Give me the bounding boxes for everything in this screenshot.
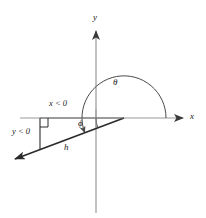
x-negative-label: x < 0 [49,99,67,108]
angle-diagram-figure: y x θ ϕ h x < 0 y < 0 [0,0,206,218]
phi-angle-label: ϕ [78,119,83,128]
y-axis-label: y [93,13,97,22]
x-axis-label: x [190,112,194,121]
h-length-label: h [64,143,69,152]
diagram-canvas [0,0,206,218]
y-negative-label: y < 0 [12,127,30,136]
theta-angle-label: θ [113,78,117,87]
right-angle-marker [40,118,48,127]
terminal-ray [15,118,124,159]
theta-arc [82,76,166,133]
